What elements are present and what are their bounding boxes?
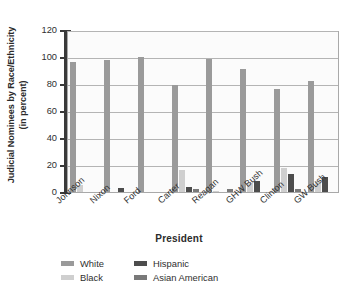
y-axis-title-line1: Judicial Nominees by Race/Ethnicity — [6, 27, 16, 183]
legend-label: Hispanic — [153, 258, 189, 269]
legend-swatch-icon — [61, 261, 74, 266]
legend-label: Black — [80, 272, 103, 283]
bar-hispanic-clinton — [288, 174, 294, 192]
bar-white-carter — [172, 85, 178, 192]
bar-white-gw-bush — [308, 81, 314, 192]
plot-area — [67, 31, 339, 193]
bar-white-nixon — [104, 60, 110, 192]
bar-white-ghw-bush — [240, 69, 246, 192]
legend-item-hispanic: Hispanic — [134, 256, 301, 270]
y-axis-tick-label: 20 — [31, 160, 57, 170]
legend-swatch-icon — [61, 275, 74, 280]
y-axis-tick-label: 60 — [31, 106, 57, 116]
y-axis-tick-label: 40 — [31, 133, 57, 143]
bar-hispanic-carter — [186, 187, 192, 192]
legend-swatch-icon — [134, 261, 147, 266]
bar-white-reagan — [206, 59, 212, 192]
legend-label: Asian American — [153, 272, 218, 283]
chart-legend: WhiteHispanicBlackAsian American — [61, 256, 301, 284]
x-axis-title: President — [0, 233, 358, 244]
y-axis-tick-label: 100 — [31, 52, 57, 62]
legend-item-black: Black — [61, 270, 129, 284]
legend-item-white: White — [61, 256, 129, 270]
y-axis-title: Judicial Nominees by Race/Ethnicity (in … — [0, 10, 34, 200]
bar-white-johnson — [70, 62, 76, 192]
y-axis-tick-label: 80 — [31, 79, 57, 89]
bar-black-reagan — [213, 191, 219, 192]
bar-white-clinton — [274, 89, 280, 192]
legend-item-asian-american: Asian American — [134, 270, 301, 284]
y-axis-tick-label: 120 — [31, 25, 57, 35]
legend-label: White — [80, 258, 104, 269]
gridline — [68, 31, 338, 32]
bar-hispanic-nixon — [118, 188, 124, 192]
y-axis-tick-label: 0 — [31, 187, 57, 197]
chart-figure: Judicial Nominees by Race/Ethnicity (in … — [0, 0, 358, 289]
y-axis-title-line2: (in percent) — [17, 81, 27, 130]
bar-white-ford — [138, 57, 144, 192]
legend-swatch-icon — [134, 275, 147, 280]
